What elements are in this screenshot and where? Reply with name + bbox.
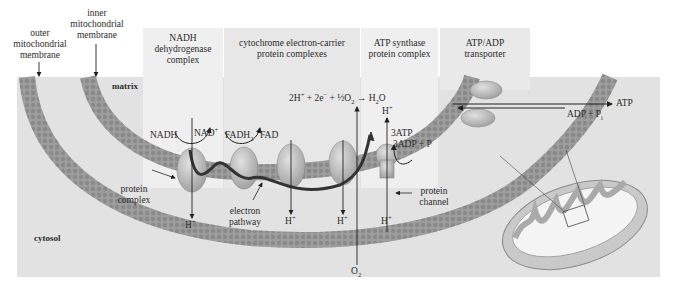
h-plus-label-2: H+ [285, 216, 296, 227]
atp-label: 3ATP [391, 128, 413, 139]
cytosol-label: cytosol [34, 233, 61, 244]
electron-pathway-callout: electron pathway [220, 206, 270, 228]
protein-channel-callout: protein channel [412, 186, 456, 208]
fadh2-label: FADH2 [225, 130, 253, 141]
nadh-label: NADH [150, 130, 177, 141]
matrix-label: matrix [112, 81, 138, 92]
water-equation: 2H+ + 2e− + ½O2 → H2O [289, 93, 386, 104]
atp-adp-transporter-bottom [461, 109, 495, 127]
inner-membrane-label: inner mitochondrial membrane [62, 8, 132, 41]
h-plus-label-top: H+ [382, 106, 393, 117]
protein-complex-2 [230, 147, 258, 189]
adp-in-label: ADP + Pi [567, 109, 603, 120]
panel-title-atp-synthase: ATP synthase protein complex [361, 38, 438, 60]
fad-label: FAD [260, 130, 278, 141]
atp-out-label: ATP [616, 98, 633, 109]
atp-adp-transporter-top [470, 81, 502, 99]
panel-title-nadh: NADH dehydrogenase complex [143, 33, 223, 66]
h-plus-label-1: H+ [185, 220, 196, 231]
panel-title-transporter: ATP/ADP transporter [440, 38, 530, 60]
mitochondrion-inset [491, 150, 658, 286]
nad-plus-label: NAD+ [194, 128, 218, 139]
o2-label: O2 [351, 266, 361, 277]
protein-complex-callout: protein complex [112, 184, 156, 206]
h-plus-label-4: H+ [381, 216, 392, 227]
panel-title-cytochrome: cytochrome electron-carrier protein comp… [224, 38, 360, 60]
h-plus-label-3: H+ [337, 216, 348, 227]
adp-label: 3ADP + P [393, 139, 432, 150]
